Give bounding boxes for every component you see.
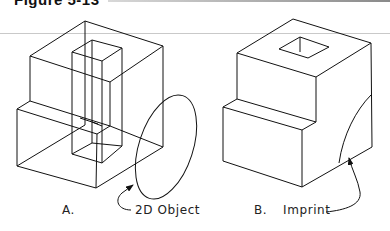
ellipse-2d-object bbox=[124, 87, 209, 206]
leader-imprint bbox=[326, 158, 360, 212]
leader-2d-object bbox=[118, 185, 133, 210]
figure-a-caption: 2D Object bbox=[135, 203, 200, 217]
figure-b-caption: Imprint bbox=[283, 203, 331, 217]
imprint-arc bbox=[339, 95, 371, 163]
figure-a-letter: A. bbox=[62, 203, 75, 217]
figure-a-wireframe-solid bbox=[17, 21, 163, 188]
figure-b-letter: B. bbox=[254, 203, 267, 217]
figure-drawing bbox=[0, 0, 390, 231]
